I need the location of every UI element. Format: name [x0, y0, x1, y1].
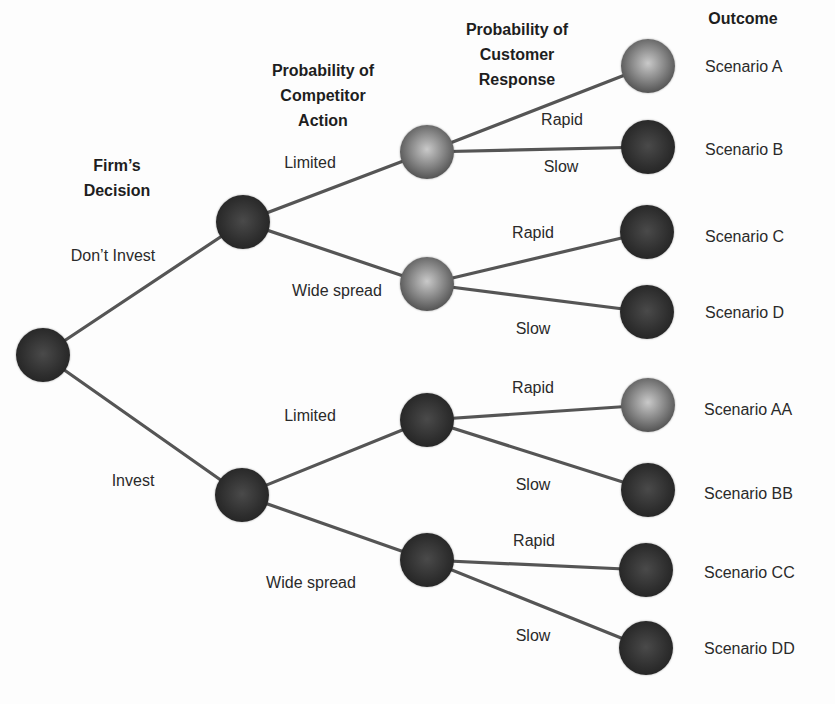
label-d-slow: Slow: [516, 320, 551, 338]
header-line: Probability of: [466, 17, 568, 42]
top-wide-spread-node: [400, 257, 454, 311]
edge-bottom-limited: [242, 420, 427, 495]
outcome-node-b: [621, 120, 675, 174]
outcome-label-cc: Scenario CC: [704, 564, 795, 582]
header-competitor-action: Probability of Competitor Action: [272, 58, 374, 133]
label-top-limited: Limited: [284, 154, 336, 172]
outcome-node-bb: [621, 463, 675, 517]
header-line: Response: [466, 67, 568, 92]
edge-d-slow: [427, 284, 647, 312]
header-line: Action: [272, 108, 374, 133]
header-outcome: Outcome: [708, 6, 777, 31]
outcome-node-dd: [619, 621, 673, 675]
outcome-label-dd: Scenario DD: [704, 640, 795, 658]
label-top-wide-spread: Wide spread: [292, 282, 382, 300]
outcome-node-c: [620, 205, 674, 259]
label-c-rapid: Rapid: [512, 224, 554, 242]
edge-top-wide-spread: [243, 222, 427, 284]
decision-tree-diagram: Firm’s Decision Probability of Competito…: [0, 0, 835, 704]
label-a-rapid: Rapid: [541, 111, 583, 129]
outcome-node-a: [621, 39, 675, 93]
label-cc-rapid: Rapid: [513, 532, 555, 550]
header-line: Firm’s: [84, 153, 151, 178]
outcome-label-aa: Scenario AA: [704, 401, 792, 419]
outcome-node-d: [620, 285, 674, 339]
label-b-slow: Slow: [544, 158, 579, 176]
header-line: Decision: [84, 178, 151, 203]
label-aa-rapid: Rapid: [512, 379, 554, 397]
edge-cc-rapid: [427, 560, 646, 570]
header-line: Customer: [466, 42, 568, 67]
dont-invest-node: [216, 195, 270, 249]
label-invest: Invest: [112, 472, 155, 490]
edge-bottom-wide-spread: [242, 495, 427, 560]
edge-b-slow: [427, 147, 648, 152]
header-firms-decision: Firm’s Decision: [84, 153, 151, 203]
top-limited-node: [400, 125, 454, 179]
label-bottom-wide-spread: Wide spread: [266, 574, 356, 592]
label-dont-invest: Don’t Invest: [71, 247, 155, 265]
header-line: Probability of: [272, 58, 374, 83]
root-decision-node: [16, 328, 70, 382]
edge-dont-invest: [43, 222, 243, 355]
label-bb-slow: Slow: [516, 476, 551, 494]
header-line: Competitor: [272, 83, 374, 108]
outcome-node-aa: [621, 378, 675, 432]
outcome-label-b: Scenario B: [705, 141, 783, 159]
tree-edges: [0, 0, 835, 704]
bottom-wide-spread-node: [400, 533, 454, 587]
label-dd-slow: Slow: [516, 627, 551, 645]
outcome-label-a: Scenario A: [705, 58, 782, 76]
invest-node: [215, 468, 269, 522]
edge-aa-rapid: [427, 405, 648, 420]
header-customer-response: Probability of Customer Response: [466, 17, 568, 92]
outcome-label-d: Scenario D: [705, 304, 784, 322]
outcome-label-c: Scenario C: [705, 228, 784, 246]
outcome-node-cc: [619, 543, 673, 597]
bottom-limited-node: [400, 393, 454, 447]
label-bottom-limited: Limited: [284, 407, 336, 425]
header-line: Outcome: [708, 6, 777, 31]
outcome-label-bb: Scenario BB: [704, 485, 793, 503]
